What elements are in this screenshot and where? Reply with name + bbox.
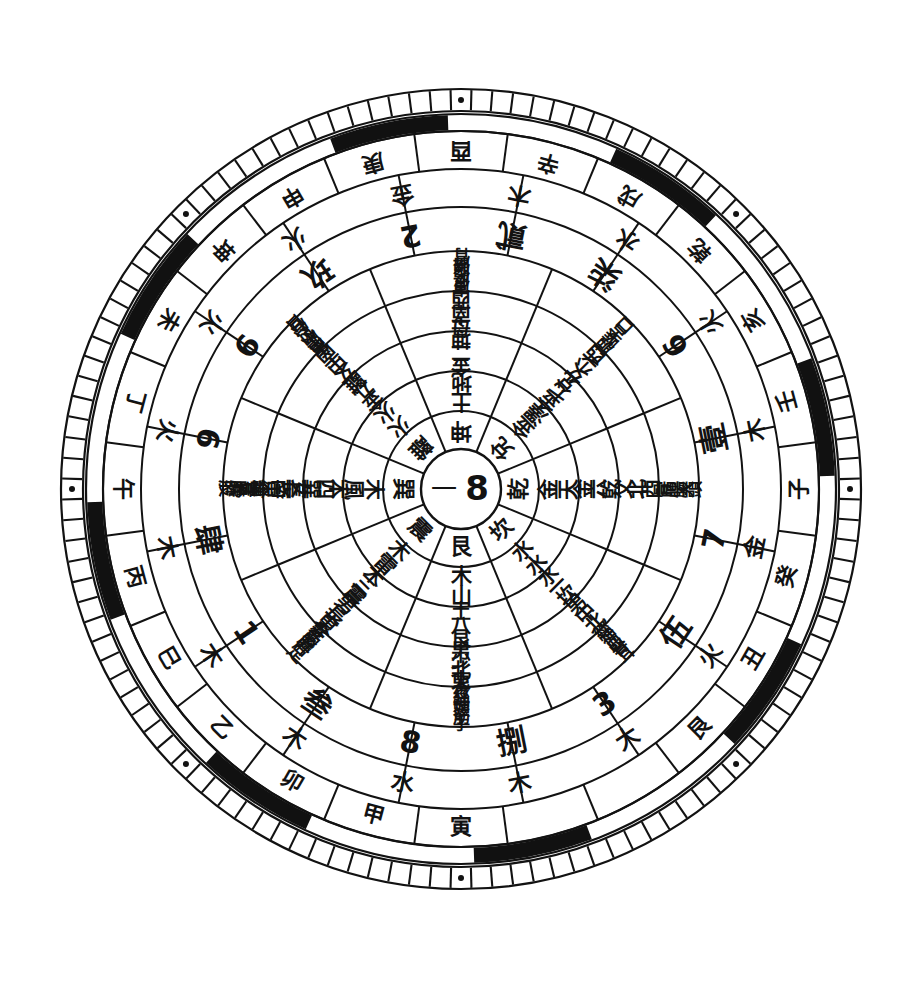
sector-divider bbox=[644, 398, 681, 413]
tick-mark bbox=[794, 670, 812, 680]
trigram-element-pair-cell: 木 bbox=[362, 478, 386, 501]
heavenly-stem-earthly-branch-ring-cell: 未 bbox=[152, 304, 185, 336]
tick-mark bbox=[235, 160, 246, 176]
tick-mark bbox=[271, 822, 281, 840]
tick-mark bbox=[569, 106, 575, 125]
tick-mark bbox=[510, 865, 513, 885]
direction-and-family-role-cell: 女 bbox=[288, 479, 312, 499]
tick-mark bbox=[202, 186, 215, 201]
bagua-trigram-names-cell: 乾 bbox=[506, 478, 531, 500]
heavenly-stem-earthly-branch-ring-cell: 酉 bbox=[450, 139, 472, 164]
tick-mark bbox=[773, 704, 789, 715]
tick-mark bbox=[837, 538, 857, 541]
tick-mark bbox=[642, 822, 652, 840]
heavenly-stem-earthly-branch-ring-cell: 戌 bbox=[614, 180, 646, 213]
tick-mark bbox=[65, 437, 85, 440]
tick-mark bbox=[202, 777, 215, 792]
numeral-pair-ring-cell: 1 bbox=[226, 614, 267, 651]
tick-mark bbox=[762, 246, 778, 258]
heavenly-stem-earthly-branch-ring-cell: 坤 bbox=[206, 234, 239, 267]
tick-mark bbox=[110, 299, 128, 309]
tick-mark bbox=[659, 149, 669, 166]
heavenly-stem-earthly-branch-ring-cell: 寅 bbox=[450, 814, 472, 839]
tick-mark bbox=[784, 687, 801, 697]
sector-divider bbox=[352, 519, 389, 534]
direction-and-family-role-cell: 男 bbox=[451, 639, 471, 663]
sector-divider bbox=[533, 519, 570, 534]
tick-mark bbox=[85, 356, 104, 363]
sector-divider bbox=[570, 534, 607, 549]
sector-divider bbox=[715, 271, 745, 294]
tick-mark bbox=[762, 720, 778, 732]
tick-mark bbox=[840, 479, 860, 480]
cardinal-dot-marker bbox=[183, 211, 189, 217]
tick-mark bbox=[451, 868, 452, 888]
numeral-pair-ring-cell: 玖 bbox=[295, 252, 339, 298]
sector-divider bbox=[401, 343, 416, 380]
tick-mark bbox=[328, 113, 335, 132]
tick-mark bbox=[606, 120, 614, 138]
tick-mark bbox=[348, 106, 354, 125]
tick-mark bbox=[749, 735, 764, 748]
numeral-pair-ring-cell: 壹 bbox=[694, 421, 734, 457]
tick-mark bbox=[388, 862, 392, 882]
five-element-pair-ring-cell: 木 bbox=[740, 417, 770, 446]
tick-mark bbox=[144, 246, 160, 258]
tick-mark bbox=[132, 704, 148, 715]
tick-mark bbox=[172, 750, 187, 764]
tick-mark bbox=[824, 597, 843, 603]
heavenly-stem-earthly-branch-ring-cell: 庚 bbox=[360, 148, 388, 178]
tick-mark bbox=[69, 558, 89, 562]
sector-divider bbox=[503, 806, 508, 844]
heavenly-stem-earthly-branch-ring-cell: 辛 bbox=[534, 148, 562, 178]
tick-mark bbox=[289, 129, 298, 147]
cardinal-dot-marker bbox=[458, 875, 464, 881]
numeral-pair-ring-cell: 2 bbox=[397, 217, 424, 255]
tick-mark bbox=[308, 120, 316, 138]
tick-mark bbox=[101, 652, 119, 661]
five-element-pair-ring-cell: 火 bbox=[152, 417, 182, 445]
body-correspondences-cell: 經 bbox=[251, 481, 271, 498]
tick-mark bbox=[63, 458, 83, 460]
trigram-element-pair-cell: 土 bbox=[451, 390, 472, 414]
heavenly-stem-earthly-branch-ring-cell: 巳 bbox=[152, 642, 185, 674]
tick-mark bbox=[811, 634, 829, 642]
tick-mark bbox=[110, 670, 128, 680]
numeral-pair-ring-cell: 貳 bbox=[493, 216, 529, 256]
tick-mark bbox=[811, 336, 829, 344]
heavenly-stem-earthly-branch-ring-cell: 申 bbox=[276, 180, 308, 213]
diagram-canvas: 艮震巽離坤兌乾坎山木雷木風木火火地土澤金天金水水艮八土震三木巽四木離九金坤二金兌… bbox=[0, 0, 916, 986]
heavenly-stem-earthly-branch-ring-cell: 卯 bbox=[276, 765, 308, 798]
sector-divider bbox=[644, 565, 681, 580]
cardinal-dot-marker bbox=[733, 211, 739, 217]
tick-mark bbox=[794, 299, 812, 309]
tick-mark bbox=[186, 764, 200, 779]
heavenly-stem-earthly-branch-ring-cell: 乙 bbox=[206, 711, 239, 744]
tick-mark bbox=[158, 230, 173, 243]
tick-mark bbox=[271, 138, 281, 156]
tick-mark bbox=[818, 616, 837, 623]
sector-divider bbox=[278, 413, 315, 428]
tick-mark bbox=[62, 499, 82, 500]
numeral-pair-ring-cell: 叁 bbox=[295, 681, 340, 727]
tick-mark bbox=[722, 200, 736, 215]
tick-mark bbox=[65, 538, 85, 541]
sector-divider bbox=[778, 442, 816, 447]
tick-mark bbox=[430, 91, 432, 111]
sector-divider bbox=[241, 398, 278, 413]
sector-divider bbox=[656, 743, 679, 773]
sector-divider bbox=[315, 429, 352, 444]
tick-mark bbox=[588, 113, 595, 132]
center-left-glyph: 一 bbox=[431, 474, 457, 504]
heavenly-stem-earthly-branch-ring-cell: 亥 bbox=[737, 304, 770, 336]
sector-divider bbox=[715, 684, 745, 707]
heavenly-stem-earthly-branch-ring-cell: 子 bbox=[786, 478, 811, 500]
tick-mark bbox=[348, 852, 354, 871]
numeral-pair-ring-cell: 6 bbox=[655, 327, 696, 364]
five-element-pair-ring-cell: 水 bbox=[389, 768, 418, 798]
heavenly-stem-earthly-branch-ring-cell: 甲 bbox=[360, 800, 388, 830]
numeral-pair-ring-cell: 柒 bbox=[582, 252, 626, 298]
sector-divider bbox=[757, 352, 792, 367]
numeral-pair-ring-cell: 8 bbox=[397, 723, 424, 761]
tick-mark bbox=[63, 519, 83, 521]
